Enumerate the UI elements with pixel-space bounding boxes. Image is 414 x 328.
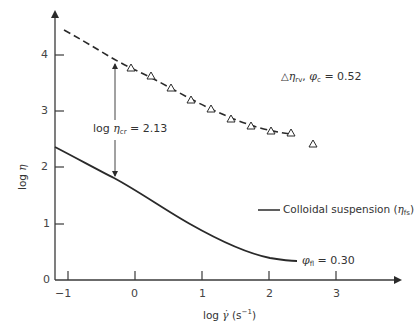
phi-fl-annotation: φfl = 0.30: [302, 255, 355, 268]
y-tick-label-3: 3: [41, 105, 48, 116]
triangle-icon: △: [281, 71, 289, 82]
y-tick-label-1: 1: [43, 218, 50, 229]
x-ticks: [68, 271, 336, 280]
legend-colloidal-suspension: Colloidal suspension (ηfs): [283, 204, 414, 217]
x-tick-label-2: 2: [266, 288, 273, 299]
y-tick-label-2: 2: [41, 161, 48, 172]
eta-rv-series-label: △ηrv, φc = 0.52: [281, 71, 362, 84]
y-tick-label-4: 4: [41, 49, 48, 60]
triangle-marker: [309, 140, 317, 147]
chart-canvas: [0, 0, 414, 328]
triangle-marker: [127, 64, 135, 71]
solid-curve-colloidal-suspension: [55, 147, 297, 261]
y-axis-title: log η: [17, 164, 28, 190]
dashed-curve-eta-rv: [64, 30, 291, 134]
triangle-marker: [167, 84, 175, 91]
x-tick-label-neg1: −1: [55, 288, 71, 299]
triangle-marker: [187, 96, 195, 103]
triangle-marker: [287, 129, 295, 136]
x-tick-label-3: 3: [333, 288, 340, 299]
y-tick-label-0: 0: [43, 274, 50, 285]
eta-cr-annotation: log ηcr = 2.13: [92, 123, 168, 136]
y-ticks: [55, 55, 64, 224]
x-tick-label-0: 0: [131, 288, 138, 299]
x-tick-label-1: 1: [199, 288, 206, 299]
triangle-marker: [147, 72, 155, 79]
triangle-marker: [207, 105, 215, 112]
x-axis-title: log γ̇ (s−1): [203, 309, 256, 320]
